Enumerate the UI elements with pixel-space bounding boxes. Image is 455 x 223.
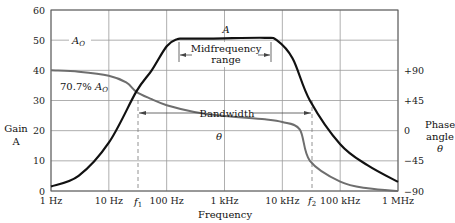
- arrowhead-right-icon: [264, 53, 270, 57]
- x-tick-label: 10 kHz: [265, 195, 299, 206]
- x-tick-label: 10 Hz: [95, 195, 123, 206]
- phase-tick-label: 0: [404, 125, 410, 136]
- gain-axis-title: Gain: [4, 123, 28, 134]
- bandwidth-label: Bandwidth: [200, 108, 255, 119]
- gain-tick-label: 60: [33, 5, 45, 16]
- phase-axis-title-symbol: θ: [437, 143, 443, 154]
- phase-curve-label: θ: [216, 131, 222, 142]
- phase-axis-ticks: +90+450−45−90: [404, 65, 424, 197]
- gain-tick-label: 10: [33, 155, 45, 166]
- gain-tick-label: 30: [33, 95, 45, 106]
- grid-lines: [51, 10, 398, 191]
- midfrequency-label: Midfrequency: [191, 43, 262, 54]
- arrowhead-left-icon: [180, 53, 186, 57]
- phase-tick-label: −45: [404, 155, 424, 166]
- gain-tick-label: 20: [33, 125, 45, 136]
- f2-label: f2: [307, 195, 316, 208]
- gain-axis-title-symbol: A: [11, 136, 20, 147]
- x-axis-ticks: 1 Hz10 Hz100 Hz1 kHz10 kHz100 kHz1 MHz: [40, 195, 414, 206]
- gain-axis-ticks: 0102030405060: [33, 5, 45, 197]
- gain-tick-label: 0: [39, 186, 45, 197]
- x-tick-label: 1 Hz: [40, 195, 62, 206]
- x-tick-label: 1 MHz: [382, 195, 414, 206]
- phase-tick-label: +45: [404, 95, 424, 106]
- f1-label: f1: [133, 196, 142, 209]
- phase-axis-title: Phase: [425, 119, 455, 130]
- gain-curve-label: A: [221, 24, 229, 35]
- phase-tick-label: +90: [404, 65, 424, 76]
- gain-tick-label: 50: [33, 35, 45, 46]
- midfrequency-label-range: range: [211, 54, 241, 65]
- x-tick-label: 1 kHz: [210, 195, 238, 206]
- x-axis-title: Frequency: [198, 209, 252, 220]
- bode-plot-chart: 1 Hz10 Hz100 Hz1 kHz10 kHz100 kHz1 MHz 0…: [0, 0, 455, 223]
- gain-tick-label: 40: [33, 65, 45, 76]
- arrowhead-right-icon: [304, 111, 311, 115]
- phase-tick-label: −90: [404, 186, 424, 197]
- x-tick-label: 100 Hz: [149, 195, 183, 206]
- phase-axis-title: angle: [426, 131, 454, 142]
- arrowhead-left-icon: [139, 111, 146, 115]
- x-tick-label: 100 kHz: [320, 195, 360, 206]
